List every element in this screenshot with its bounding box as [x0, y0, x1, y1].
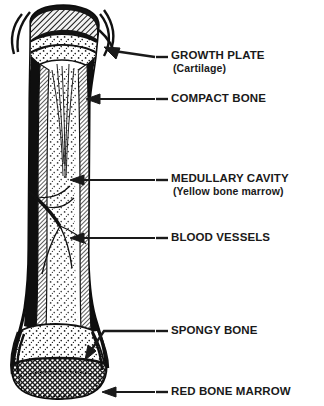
label-spongy-bone-main: SPONGY BONE — [171, 324, 258, 337]
label-red-bone-marrow-main: RED BONE MARROW — [171, 385, 291, 398]
label-red-bone-marrow: RED BONE MARROW — [171, 385, 291, 398]
label-medullary-cavity-main: MEDULLARY CAVITY — [171, 172, 289, 185]
label-compact-bone: COMPACT BONE — [171, 92, 266, 105]
label-growth-plate-main: GROWTH PLATE — [171, 49, 265, 62]
leader-red-bone-marrow — [102, 387, 155, 397]
leader-compact-bone — [86, 94, 155, 104]
label-growth-plate: GROWTH PLATE (Cartilage) — [171, 49, 265, 75]
leader-medullary-cavity — [70, 175, 155, 185]
bone-illustration — [0, 0, 324, 406]
leader-growth-plate — [104, 47, 155, 59]
label-blood-vessels: BLOOD VESSELS — [171, 231, 270, 244]
label-blood-vessels-main: BLOOD VESSELS — [171, 231, 270, 244]
label-medullary-cavity-sub: (Yellow bone marrow) — [171, 185, 289, 198]
leader-blood-vessels — [70, 233, 155, 243]
label-dashes — [156, 57, 168, 392]
label-growth-plate-sub: (Cartilage) — [171, 62, 265, 75]
label-medullary-cavity: MEDULLARY CAVITY (Yellow bone marrow) — [171, 172, 289, 198]
bone-diagram-page: GROWTH PLATE (Cartilage) COMPACT BONE ME… — [0, 0, 324, 406]
label-spongy-bone: SPONGY BONE — [171, 324, 258, 337]
label-compact-bone-main: COMPACT BONE — [171, 92, 266, 105]
